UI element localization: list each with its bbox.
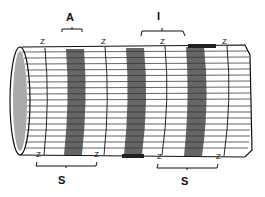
z-line-label: Z	[216, 152, 221, 161]
z-line-label: Z	[36, 150, 41, 159]
z-line-label: Z	[40, 37, 45, 46]
z-line-label: Z	[222, 37, 227, 46]
z-line-label: Z	[160, 37, 165, 46]
sarcomere-label: S	[181, 175, 188, 187]
z-line-label: Z	[157, 152, 162, 161]
z-line-label: Z	[101, 37, 106, 46]
a-band-label: A	[66, 11, 74, 23]
i-band-label: I	[157, 10, 160, 22]
z-line-label: Z	[94, 150, 99, 159]
muscle-fiber-drawing	[0, 0, 265, 197]
sarcomere-label: S	[58, 174, 65, 186]
